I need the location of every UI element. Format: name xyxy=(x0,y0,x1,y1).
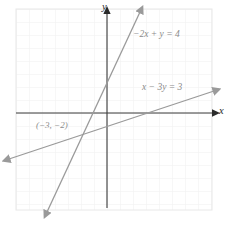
equation-1-label: −2x + y = 4 xyxy=(133,30,180,40)
graph-canvas xyxy=(0,0,230,227)
y-axis-label: y xyxy=(102,2,107,13)
equation-2-label: x − 3y = 3 xyxy=(142,83,182,93)
graph-figure: −2x + y = 4 x − 3y = 3 (−3, −2) y x xyxy=(0,0,230,227)
intersection-point-label: (−3, −2) xyxy=(36,121,68,130)
grid-area xyxy=(16,9,212,210)
x-axis-label: x xyxy=(219,106,224,117)
